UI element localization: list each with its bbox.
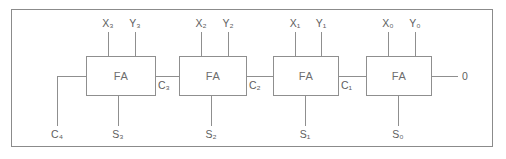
diagram-border-frame: FA X₃ Y₃ S₃ C₄ FA C₃ X₂ Y₂ S₂ F bbox=[11, 9, 493, 147]
label-x3: X₃ bbox=[102, 18, 113, 29]
wire-input-x0 bbox=[388, 32, 389, 56]
wire-input-y0 bbox=[415, 32, 416, 56]
label-c3: C₃ bbox=[158, 80, 170, 91]
wire-carry-out-c4-vertical bbox=[57, 76, 58, 126]
full-adder-label-0: FA bbox=[392, 70, 406, 82]
full-adder-block-1: FA bbox=[273, 56, 339, 96]
full-adder-label-1: FA bbox=[299, 70, 313, 82]
wire-output-s0 bbox=[398, 96, 399, 126]
wire-input-y2 bbox=[228, 32, 229, 56]
full-adder-block-2: FA bbox=[179, 56, 247, 96]
label-y3: Y₃ bbox=[129, 18, 140, 29]
label-y0: Y₀ bbox=[409, 18, 420, 29]
label-y1: Y₁ bbox=[316, 18, 327, 29]
full-adder-label-3: FA bbox=[114, 70, 128, 82]
wire-carry-in-zero bbox=[432, 76, 458, 77]
label-s3: S₃ bbox=[112, 129, 123, 140]
label-s0: S₀ bbox=[392, 129, 403, 140]
wire-output-s3 bbox=[118, 96, 119, 126]
label-c1: C₁ bbox=[341, 80, 352, 91]
label-x2: X₂ bbox=[195, 18, 206, 29]
wire-input-x1 bbox=[295, 32, 296, 56]
label-y2: Y₂ bbox=[222, 18, 233, 29]
full-adder-block-0: FA bbox=[366, 56, 432, 96]
wire-carry-out-c4-horizontal bbox=[57, 76, 86, 77]
full-adder-label-2: FA bbox=[206, 70, 220, 82]
wire-input-y3 bbox=[135, 32, 136, 56]
circuit-diagram-canvas: FA X₃ Y₃ S₃ C₄ FA C₃ X₂ Y₂ S₂ F bbox=[0, 0, 506, 159]
wire-input-y1 bbox=[321, 32, 322, 56]
wire-output-s2 bbox=[211, 96, 212, 126]
label-carry-in-zero: 0 bbox=[462, 71, 468, 82]
label-x0: X₀ bbox=[382, 18, 393, 29]
wire-input-x2 bbox=[201, 32, 202, 56]
label-s2: S₂ bbox=[205, 129, 216, 140]
label-s1: S₁ bbox=[300, 129, 311, 140]
label-x1: X₁ bbox=[290, 18, 301, 29]
label-c4: C₄ bbox=[51, 129, 63, 140]
wire-carry-c3 bbox=[156, 76, 179, 77]
wire-output-s1 bbox=[305, 96, 306, 126]
full-adder-block-3: FA bbox=[86, 56, 156, 96]
wire-carry-c2 bbox=[247, 76, 273, 77]
wire-input-x3 bbox=[108, 32, 109, 56]
label-c2: C₂ bbox=[249, 80, 261, 91]
wire-carry-c1 bbox=[339, 76, 366, 77]
